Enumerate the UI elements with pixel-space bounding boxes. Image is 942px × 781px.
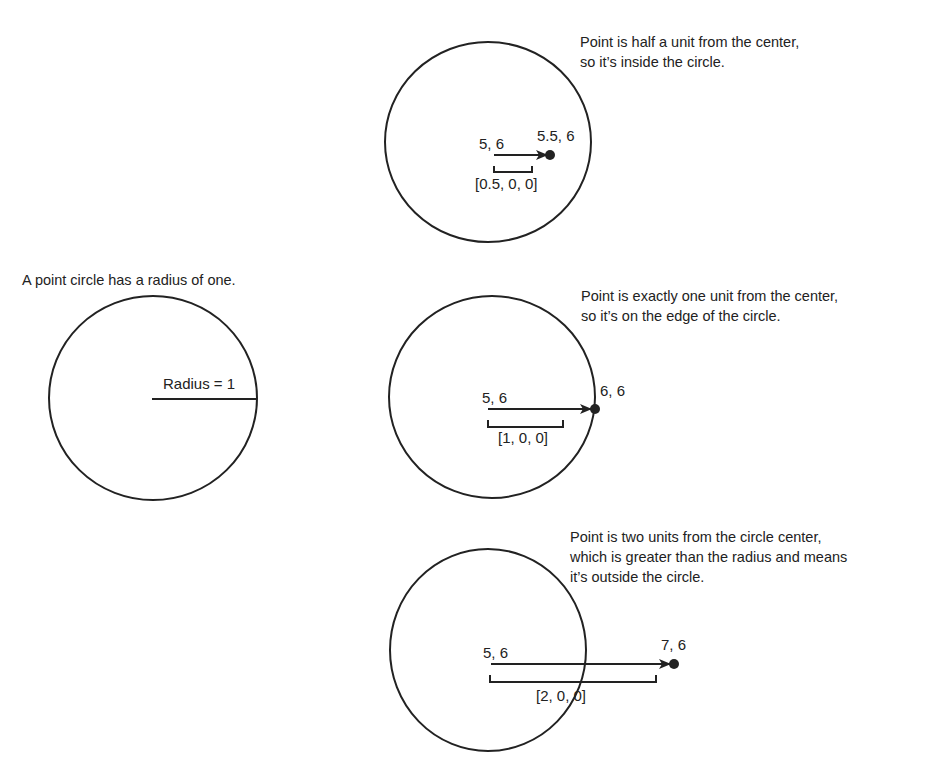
edge-point-label: 6, 6 xyxy=(600,383,625,399)
diagram-canvas xyxy=(0,0,942,781)
radius-label: Radius = 1 xyxy=(163,376,235,392)
inside-center-label: 5, 6 xyxy=(479,136,504,152)
reference-circle-group xyxy=(49,296,257,500)
inside-point-dot xyxy=(545,150,555,160)
outside-center-label: 5, 6 xyxy=(483,645,508,661)
outside-point-label: 7, 6 xyxy=(661,637,686,653)
inside-point-label: 5.5, 6 xyxy=(537,128,575,144)
outside-vector-label: [2, 0, 0] xyxy=(536,688,586,704)
inside-caption: Point is half a unit from the center, so… xyxy=(580,32,799,72)
edge-point-dot xyxy=(590,404,600,414)
reference-caption: A point circle has a radius of one. xyxy=(22,270,236,290)
edge-center-label: 5, 6 xyxy=(482,390,507,406)
edge-vector-label: [1, 0, 0] xyxy=(498,430,548,446)
inside-vector-bracket xyxy=(494,166,532,172)
edge-caption: Point is exactly one unit from the cente… xyxy=(581,286,838,326)
inside-vector-label: [0.5, 0, 0] xyxy=(475,176,538,192)
outside-caption: Point is two units from the circle cente… xyxy=(570,527,847,587)
edge-vector-bracket xyxy=(488,420,563,427)
outside-vector-bracket xyxy=(490,675,656,682)
outside-point-dot xyxy=(669,659,679,669)
